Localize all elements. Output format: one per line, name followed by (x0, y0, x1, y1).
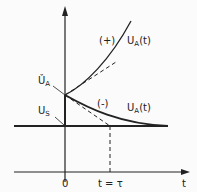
plus-curve (65, 21, 131, 95)
minus-curve-label: UA(t) (127, 103, 151, 115)
steady-value-sub: S (45, 110, 49, 118)
minus-curve-sign: (-) (97, 99, 108, 109)
steady-value-leader (55, 117, 64, 125)
initial-value-label: ǓA (38, 76, 50, 88)
diagram-graphics (0, 0, 197, 192)
plus-curve-label: UA(t) (127, 36, 151, 48)
tau-label: t = τ (98, 179, 123, 189)
initial-value-leader (53, 86, 65, 95)
initial-value-sub: A (45, 80, 50, 88)
t-axis-arrow-icon (181, 169, 190, 175)
y-axis-arrow-icon (62, 6, 68, 16)
origin-label: 0 (62, 179, 68, 189)
steady-value-label: US (38, 106, 50, 118)
minus-curve (65, 95, 168, 126)
response-diagram: (+) UA(t) (-) UA(t) ǓA US 0 t = τ t (0, 0, 197, 192)
plus-tangent (65, 62, 116, 95)
minus-curve-arg: (t) (139, 102, 151, 113)
t-axis-label: t (182, 179, 186, 189)
plus-curve-sign: (+) (99, 36, 115, 46)
plus-curve-arg: (t) (139, 35, 151, 46)
